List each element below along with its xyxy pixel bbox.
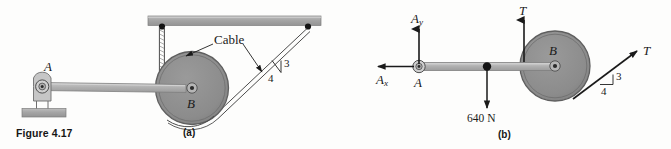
label-slope-rise-b: 3: [616, 71, 622, 82]
label-weight: 640 N: [467, 113, 495, 125]
label-point-a: A: [44, 60, 52, 73]
label-pulley-b-fbd: B: [549, 44, 557, 57]
label-slope-run-b: 4: [601, 86, 607, 97]
figure-canvas: A B Cable 3 4 (a) Figure 4.17 Ay Ax A B …: [0, 0, 671, 149]
weight-point: [483, 62, 491, 70]
figure-vector-graphics: [0, 0, 671, 149]
label-pulley-b: B: [187, 97, 195, 110]
label-tension-inclined: T: [643, 44, 650, 57]
label-pin-a-fbd: A: [414, 76, 422, 89]
pin-b: [187, 83, 197, 93]
panel-a-label: (a): [183, 128, 195, 138]
figure-caption: Figure 4.17: [16, 128, 73, 139]
label-slope-run-a: 4: [268, 73, 274, 84]
label-reaction-ay-subscript: y: [419, 17, 423, 27]
panel-b-label: (b): [498, 130, 511, 140]
label-reaction-ax: Ax: [376, 73, 388, 88]
panel-b-graphics: [378, 20, 637, 108]
panel-a-graphics: [22, 16, 321, 130]
label-reaction-ax-subscript: x: [384, 78, 388, 88]
label-reaction-ay-main: A: [411, 11, 419, 26]
slope-triangle-b: [600, 75, 613, 85]
label-tension-vertical: T: [519, 4, 526, 17]
label-slope-rise-a: 3: [284, 58, 290, 69]
ceiling-bar: [148, 16, 321, 26]
pin-b-fbd: [550, 61, 560, 71]
ground-base: [22, 109, 66, 118]
label-cable: Cable: [214, 33, 244, 46]
label-reaction-ay: Ay: [411, 12, 423, 27]
arm-ab: [42, 83, 187, 93]
label-reaction-ax-main: A: [376, 72, 384, 87]
pin-support-a: [22, 72, 66, 117]
cable-anchor-right: [305, 23, 311, 29]
